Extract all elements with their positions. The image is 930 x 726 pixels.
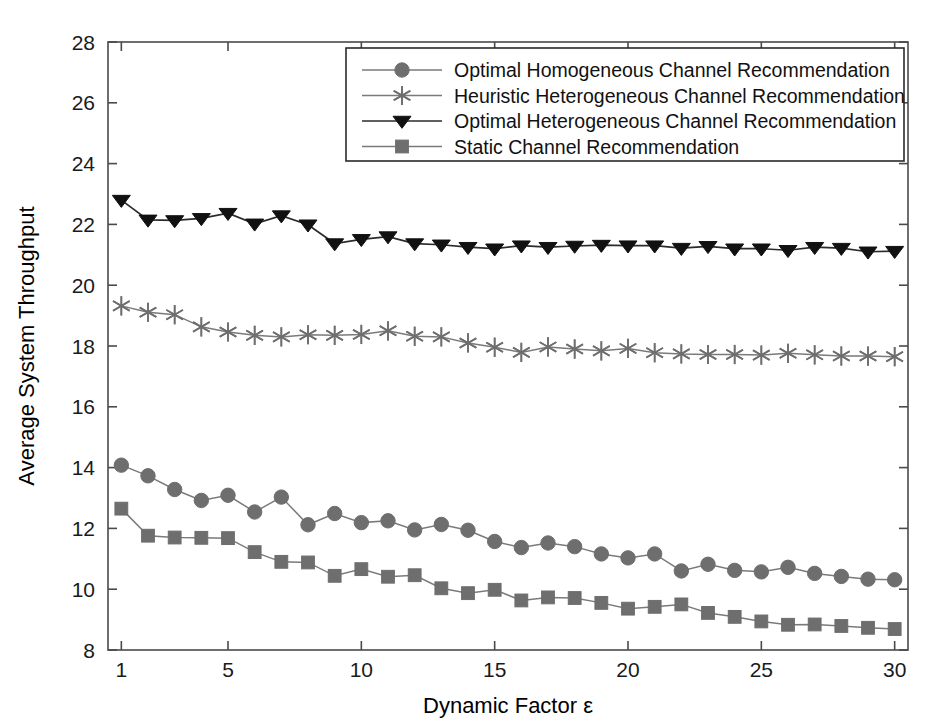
data-point: [619, 241, 637, 253]
series-line: [121, 306, 894, 357]
data-point: [247, 505, 261, 519]
data-point: [408, 569, 421, 582]
x-tick-label: 30: [883, 658, 906, 681]
data-point: [726, 244, 744, 256]
data-point: [672, 243, 690, 255]
data-point: [647, 547, 661, 561]
data-point: [727, 563, 741, 577]
data-point: [328, 569, 341, 582]
data-point: [859, 247, 877, 259]
data-point: [542, 591, 555, 604]
y-tick-label: 28: [72, 31, 95, 54]
data-point: [167, 482, 181, 496]
y-tick-label: 16: [72, 395, 95, 418]
data-point: [166, 216, 184, 228]
data-point: [807, 566, 821, 580]
data-point: [381, 514, 395, 528]
data-point: [459, 242, 477, 254]
data-point: [779, 246, 797, 258]
data-point: [861, 572, 875, 586]
data-point: [248, 546, 261, 559]
data-point: [834, 569, 848, 583]
data-point: [301, 518, 315, 532]
series-triangle-down: [112, 195, 903, 259]
data-point: [781, 560, 795, 574]
data-point: [462, 587, 475, 600]
data-point: [594, 547, 608, 561]
data-point: [886, 246, 904, 258]
data-point: [193, 317, 210, 336]
data-point: [168, 531, 181, 544]
legend-label: Optimal Homogeneous Channel Recommendati…: [454, 59, 890, 81]
data-point: [621, 551, 635, 565]
data-point: [835, 620, 848, 633]
data-point: [355, 563, 368, 576]
data-point: [513, 343, 530, 362]
data-point: [434, 517, 448, 531]
y-axis-title: Average System Throughput: [14, 206, 39, 485]
data-point: [354, 515, 368, 529]
data-point: [274, 490, 288, 504]
y-tick-label: 26: [72, 91, 95, 114]
y-tick-label: 24: [72, 152, 96, 175]
data-point: [195, 531, 208, 544]
data-point: [115, 502, 128, 515]
data-point: [782, 618, 795, 631]
data-point: [299, 220, 317, 232]
data-point: [114, 458, 128, 472]
legend-label: Optimal Heterogeneous Channel Recommenda…: [454, 110, 896, 132]
data-point: [862, 621, 875, 634]
data-point: [808, 618, 821, 631]
data-point: [486, 244, 504, 256]
series-star: [113, 296, 903, 366]
y-tick-label: 22: [72, 213, 95, 236]
data-point: [221, 488, 235, 502]
series-line: [121, 200, 894, 252]
data-point: [486, 338, 503, 357]
data-point: [728, 610, 741, 623]
y-tick-label: 12: [72, 517, 95, 540]
data-point: [887, 573, 901, 587]
legend: Optimal Homogeneous Channel Recommendati…: [346, 48, 905, 161]
x-tick-label: 1: [115, 658, 127, 681]
data-point: [888, 623, 901, 636]
data-point: [139, 215, 157, 227]
data-point: [568, 592, 581, 605]
data-point: [514, 540, 528, 554]
data-point: [141, 469, 155, 483]
data-point: [407, 523, 421, 537]
data-point: [702, 607, 715, 620]
data-point: [622, 602, 635, 615]
data-point: [380, 321, 397, 340]
data-point: [592, 240, 610, 252]
data-point: [194, 493, 208, 507]
series-circle: [114, 458, 902, 587]
average-system-throughput-line-chart: 810121416182022242628151015202530Dynamic…: [0, 0, 930, 726]
data-point: [754, 565, 768, 579]
data-point: [275, 555, 288, 568]
series-line: [121, 465, 894, 580]
data-point: [246, 219, 264, 231]
y-tick-label: 14: [72, 456, 96, 479]
y-tick-label: 18: [72, 335, 95, 358]
data-point: [567, 539, 581, 553]
data-point: [674, 564, 688, 578]
x-tick-label: 15: [483, 658, 506, 681]
x-tick-label: 20: [616, 658, 639, 681]
data-point: [541, 536, 555, 550]
data-point: [675, 598, 688, 611]
data-point: [327, 506, 341, 520]
data-point: [566, 241, 584, 253]
data-point: [755, 615, 768, 628]
data-point: [539, 242, 557, 254]
data-point: [142, 529, 155, 542]
data-point: [113, 296, 130, 315]
y-tick-label: 10: [72, 578, 95, 601]
x-axis-title: Dynamic Factor ε: [423, 693, 593, 718]
data-point: [595, 596, 608, 609]
data-point: [461, 523, 475, 537]
data-point: [515, 594, 528, 607]
data-point: [302, 556, 315, 569]
x-tick-label: 10: [350, 658, 373, 681]
legend-label: Heuristic Heterogeneous Channel Recommen…: [454, 85, 905, 107]
